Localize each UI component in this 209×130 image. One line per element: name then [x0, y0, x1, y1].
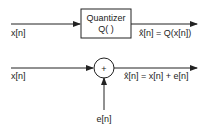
top-quantizer-system: x[n] Quantizer Q( ) x̂[n] = Q(x[n]) — [11, 9, 197, 38]
quantizer-block-function: Q( ) — [98, 24, 114, 34]
bottom-additive-noise-model: x[n] + x̂[n] = x[n] + e[n] e[n] — [11, 58, 197, 124]
input-label-top: x[n] — [11, 28, 26, 38]
adder-plus-icon: + — [101, 64, 106, 74]
input-label-bottom: x[n] — [11, 71, 26, 81]
noise-label: e[n] — [96, 114, 111, 124]
output-label-top: x̂[n] = Q(x[n]) — [139, 28, 191, 38]
quantizer-block-title: Quantizer — [86, 13, 125, 23]
quantizer-model-diagram: x[n] Quantizer Q( ) x̂[n] = Q(x[n]) x[n]… — [0, 0, 209, 130]
output-label-bottom: x̂[n] = x[n] + e[n] — [124, 71, 189, 81]
